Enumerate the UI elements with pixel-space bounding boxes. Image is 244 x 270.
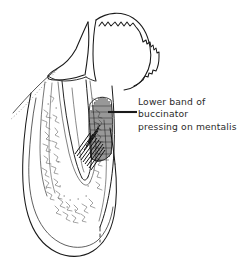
annotation-line-3: pressing on mentalis [138,121,244,133]
figure-root: Lower band of buccinator pressing on men… [0,0,244,270]
scalloped-bone-crest [93,13,159,90]
annotation-label: Lower band of buccinator pressing on men… [138,96,244,133]
annotation-line-2: buccinator [138,108,244,120]
annotation-line-1: Lower band of [138,96,244,108]
anterior-cortical-plate [40,82,55,196]
anatomical-illustration [0,0,244,270]
mandible-body-outline [23,93,117,256]
tooth-root [62,80,91,180]
